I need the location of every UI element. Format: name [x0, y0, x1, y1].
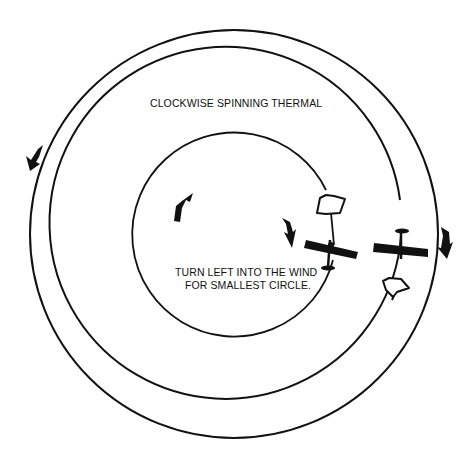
upper-wind-arrow — [317, 195, 345, 214]
inner-path-circle — [132, 133, 333, 337]
note-line-1: TURN LEFT INTO THE WIND — [175, 266, 317, 279]
thermal-diagram — [0, 0, 470, 458]
inner-right-arrow — [282, 218, 296, 248]
inner-circle-segment — [331, 213, 334, 245]
outer-path-circle — [30, 30, 438, 438]
instruction-note: TURN LEFT INTO THE WIND FOR SMALLEST CIR… — [175, 266, 317, 292]
outer-glider — [373, 229, 428, 260]
thermal-title-label: CLOCKWISE SPINNING THERMAL — [150, 97, 322, 109]
inner-left-arrow — [174, 193, 193, 222]
outer-right-arrow — [437, 227, 453, 259]
note-line-2: FOR SMALLEST CIRCLE. — [175, 279, 317, 292]
